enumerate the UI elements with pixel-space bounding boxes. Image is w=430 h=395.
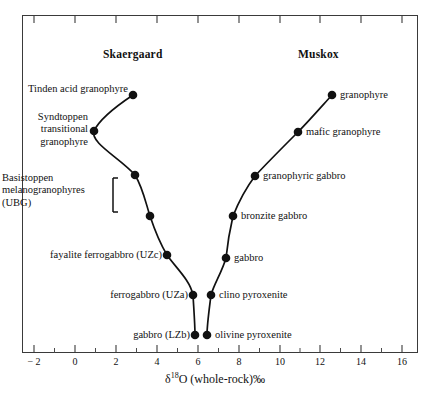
series-title-skaergaard: Skaergaard <box>103 48 163 60</box>
xtick-label-16: 16 <box>385 356 419 367</box>
xtick-label-2: 2 <box>99 356 133 367</box>
point-label-basistoppen-melanogranophyres: Basistoppen melanogranophyres (UBG) <box>2 172 109 209</box>
point-label-olivine-pyroxenite: olivine pyroxenite <box>215 329 292 341</box>
label-line-2: melanogranophyres <box>2 184 109 196</box>
point-label-bronzite-gabbro: bronzite gabbro <box>241 210 307 222</box>
point-label-granophyre: granophyre <box>340 89 388 101</box>
xtick-label-14: 14 <box>344 356 378 367</box>
label-line-1: Syndtoppen <box>10 111 88 123</box>
point-label-granophyric-gabbro: granophyric gabbro <box>263 170 346 182</box>
xtick-label-4: 4 <box>140 356 174 367</box>
label-line-2: transitional <box>10 123 88 135</box>
x-axis-title: δ18O (whole-rock)‰ <box>0 371 430 387</box>
xtick-label-8: 8 <box>222 356 256 367</box>
xtick-label-10: 10 <box>263 356 297 367</box>
xtick-label-0: 0 <box>58 356 92 367</box>
xtick-label-6: 6 <box>181 356 215 367</box>
point-label-mafic-granophyre: mafic granophyre <box>306 126 380 138</box>
point-label-clino-pyroxenite: clino pyroxenite <box>219 289 288 301</box>
point-label-gabbro-lzb: gabbro (LZb) <box>110 329 190 341</box>
label-line-3: (UBG) <box>2 197 109 209</box>
point-label-tinden-acid-granophyre: Tinden acid granophyre <box>18 83 128 95</box>
label-line-3: granophyre <box>10 136 88 148</box>
figure-isotope-plot: Skaergaard Muskox Tinden acid granophyre… <box>0 0 430 395</box>
label-line-1: Basistoppen <box>2 172 109 184</box>
point-label-syndtoppen-transitional-granophyre: Syndtoppen transitional granophyre <box>10 111 88 148</box>
xtick-label-12: 12 <box>303 356 337 367</box>
series-title-muskox: Muskox <box>298 48 339 60</box>
point-label-ferrogabbro-uza: ferrogabbro (UZa) <box>88 289 188 301</box>
axis-title-rest: O (whole-rock)‰ <box>179 372 265 386</box>
xtick-label-neg2: − 2 <box>17 356 51 367</box>
point-label-gabbro: gabbro <box>234 252 263 264</box>
axis-title-superscript: 18 <box>171 371 179 380</box>
point-label-fayalite-ferrogabbro-uzc: fayalite ferrogabbro (UZc) <box>27 249 162 261</box>
